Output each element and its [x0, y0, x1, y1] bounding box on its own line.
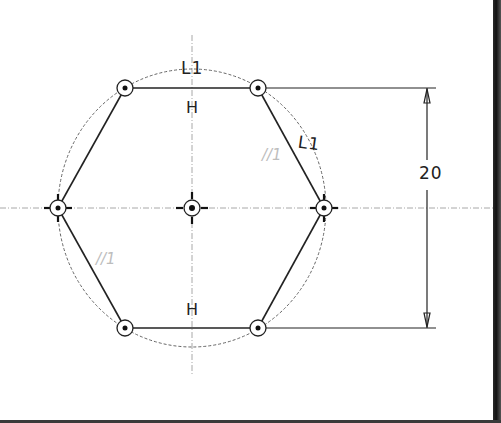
parallel-constraint-right[interactable]: //1 — [262, 148, 282, 163]
vertex-top-right[interactable] — [250, 80, 266, 96]
edge-top-left[interactable] — [58, 88, 125, 208]
vertex-left[interactable] — [44, 194, 72, 222]
dimension-value[interactable]: 20 — [419, 165, 443, 182]
center-point[interactable] — [176, 192, 208, 224]
window-right-border — [493, 0, 501, 423]
sketch-canvas[interactable]: L1 H L1 //1 //1 H 20 — [0, 0, 493, 420]
parallel-constraint-left[interactable]: //1 — [96, 252, 116, 267]
horizontal-constraint-bottom[interactable]: H — [186, 302, 198, 318]
vertex-bottom-right[interactable] — [250, 320, 266, 336]
edge-bottom-right[interactable] — [258, 208, 324, 328]
vertex-bottom-left[interactable] — [117, 320, 133, 336]
sketch-svg[interactable] — [0, 0, 493, 420]
equal-length-constraint-right[interactable]: L1 — [297, 134, 321, 154]
vertex-top-left[interactable] — [117, 80, 133, 96]
edge-bottom-left[interactable] — [58, 208, 125, 328]
vertex-right[interactable] — [310, 194, 338, 222]
equal-length-constraint-top[interactable]: L1 — [181, 60, 203, 77]
horizontal-constraint-top[interactable]: H — [186, 100, 198, 116]
